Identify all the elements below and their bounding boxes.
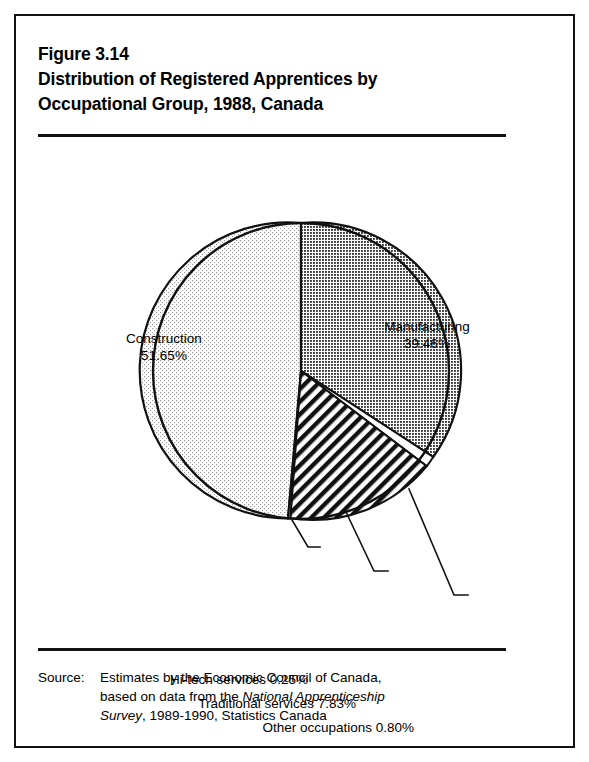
slice-label-construction: Construction 51.65%	[112, 330, 216, 364]
figure-title-block: Figure 3.14 Distribution of Registered A…	[38, 42, 538, 117]
source-line-2-italic: National Apprenticeship	[243, 689, 385, 704]
figure-title-line-1: Distribution of Registered Apprentices b…	[38, 67, 538, 92]
slice-label-manufacturing-value: 39.46%	[365, 335, 489, 352]
leader-line-traditional	[346, 512, 388, 571]
pie-chart-area: Construction 51.65% Manufacturing 39.46%…	[16, 148, 573, 616]
pie-slice-construction[interactable]	[140, 222, 301, 518]
slice-label-manufacturing-name: Manufacturing	[365, 318, 489, 335]
pie-chart-svg	[16, 148, 573, 616]
pie-slices	[140, 222, 461, 520]
slice-label-construction-name: Construction	[112, 330, 216, 347]
source-divider-rule	[38, 648, 506, 651]
source-text: Estimates by the Economic Council of Can…	[100, 668, 385, 725]
source-note: Source: Estimates by the Economic Counci…	[38, 668, 538, 725]
source-line-3-post: , 1989-1990, Statistics Canada	[142, 708, 327, 723]
source-label: Source:	[38, 668, 100, 687]
figure-number: Figure 3.14	[38, 42, 538, 67]
slice-label-manufacturing: Manufacturing 39.46%	[365, 318, 489, 352]
source-line-1: Estimates by the Economic Council of Can…	[100, 668, 385, 687]
title-divider-rule	[38, 134, 506, 137]
leader-line-hitech	[292, 520, 320, 547]
source-line-3: Survey, 1989-1990, Statistics Canada	[100, 706, 385, 725]
figure-frame: Figure 3.14 Distribution of Registered A…	[14, 14, 575, 748]
figure-title-line-2: Occupational Group, 1988, Canada	[38, 92, 538, 117]
leader-line-other	[409, 489, 468, 595]
slice-label-construction-value: 51.65%	[112, 347, 216, 364]
figure-inner: Figure 3.14 Distribution of Registered A…	[16, 16, 573, 746]
source-line-3-italic: Survey	[100, 708, 142, 723]
source-line-2: based on data from the National Apprenti…	[100, 687, 385, 706]
source-line-2-pre: based on data from the	[100, 689, 243, 704]
